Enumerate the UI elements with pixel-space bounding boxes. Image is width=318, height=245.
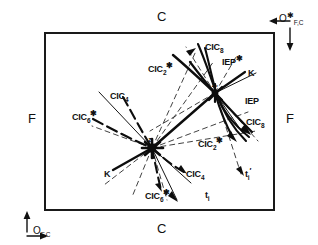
annotation-sup: ✱ <box>90 109 97 118</box>
edge-label-left-f: F <box>28 112 36 125</box>
annotation-base: IEP <box>245 96 259 106</box>
annotation-base: IEP <box>222 57 236 67</box>
annotation-sub: 4 <box>201 174 204 181</box>
annotation-sup: ✱ <box>236 54 243 63</box>
annotation-sub: 4 <box>125 96 128 103</box>
node-z1-core <box>212 90 219 97</box>
edge-label-right-f: F <box>286 112 294 125</box>
origin-symbol: O <box>33 225 41 236</box>
annotation-iep: IEP <box>245 94 259 108</box>
annotation-sub: 8 <box>261 122 264 129</box>
annotation-cic8-right: CIC8 <box>246 115 264 129</box>
k-axis-lower <box>113 148 152 170</box>
annotation-base: CIC <box>205 42 220 52</box>
annotation-sup: ✱ <box>166 61 173 70</box>
edge-label-top-c: C <box>157 10 166 23</box>
node-z-core <box>148 144 156 152</box>
annotation-ti-prime: ti′ <box>245 167 251 181</box>
origin-symbol: O <box>279 13 287 24</box>
annotation-base: CIC <box>145 191 160 201</box>
annotation-base: CIC <box>186 169 201 179</box>
annotation-base: K <box>104 169 110 179</box>
origin-superscript: ✱ <box>287 11 294 20</box>
annotation-ti: ti <box>205 188 209 202</box>
origin-subscript: F,C <box>294 19 304 26</box>
origin-top-right: O✱F,C <box>279 12 304 27</box>
annotation-k-lower: K <box>104 167 110 181</box>
annotation-iep-star: IEP✱ <box>222 55 243 69</box>
dashed-rays-z <box>92 51 256 200</box>
diagram-vector-layer <box>0 0 318 245</box>
annotation-base: K <box>248 68 254 78</box>
annotation-k-upper: K <box>248 66 254 80</box>
annotation-sub: i <box>208 195 210 202</box>
annotation-base: CIC <box>148 64 163 74</box>
annotation-sup: ✱ <box>216 136 223 145</box>
annotation-sup: ✱ <box>163 188 170 197</box>
annotation-cic2-star-lower: CIC2✱ <box>198 137 223 151</box>
origin-bottom-left: OF,C <box>33 226 51 239</box>
annotation-cic4-lower: CIC4 <box>186 167 204 181</box>
node-label-z1: z₁ <box>212 81 218 88</box>
annotation-sub: 8 <box>220 47 223 54</box>
annotation-cic8-top: CIC8 <box>205 40 223 54</box>
annotation-cic6-star-lower: CIC6✱ <box>145 189 170 203</box>
annotation-cic2-star-upper: CIC2✱ <box>148 62 173 76</box>
annotation-base: CIC <box>72 112 87 122</box>
annotation-base: CIC <box>110 91 125 101</box>
cic6-star-curve <box>93 119 152 148</box>
figure-canvas: C C F F OF,C O✱F,C z z₁ CIC8 IEP✱ K CIC2… <box>0 0 318 245</box>
annotation-cic6-star-left: CIC6✱ <box>72 110 97 124</box>
edge-label-bottom-c: C <box>157 222 166 235</box>
annotation-base: CIC <box>198 139 213 149</box>
annotation-cic4-upper: CIC4 <box>110 89 128 103</box>
annotation-sup: ′ <box>249 166 251 175</box>
origin-subscript: F,C <box>41 231 51 238</box>
annotation-base: CIC <box>246 117 261 127</box>
node-label-z: z <box>148 136 152 143</box>
